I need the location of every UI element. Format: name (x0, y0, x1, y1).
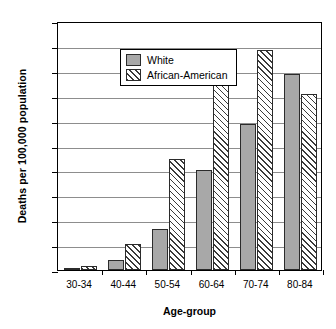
bar-white (152, 229, 168, 270)
legend-label-african-american: African-American (147, 69, 228, 81)
y-axis-tick (52, 247, 58, 248)
y-axis-tick (52, 172, 58, 173)
bar-group (102, 244, 146, 270)
bar-group (146, 159, 190, 270)
y-axis-tick (52, 148, 58, 149)
bar-group (235, 50, 279, 270)
y-axis-tick (52, 48, 58, 49)
bar-african-american (125, 244, 141, 270)
bar-african-american (301, 94, 317, 270)
bar-chart: Deaths per 100,000 population 0246810121… (0, 0, 336, 329)
legend-label-white: White (147, 54, 174, 66)
legend: White African-American (120, 49, 237, 86)
bar-group (279, 74, 323, 270)
y-axis-tick (52, 23, 58, 24)
bar-white (284, 74, 300, 270)
bar-white (108, 260, 124, 270)
x-axis-tick-label: 40-44 (101, 279, 145, 290)
bar-white (240, 124, 256, 270)
legend-swatch-african-american (126, 69, 141, 81)
x-axis-tick (191, 270, 192, 275)
x-axis-title: Age-group (57, 305, 322, 317)
x-axis-tick (146, 270, 147, 275)
y-axis-tick (52, 123, 58, 124)
bar-african-american (169, 159, 185, 270)
bar-group (58, 266, 102, 270)
x-axis-tick (279, 270, 280, 275)
bar-white (64, 268, 80, 270)
legend-swatch-white (126, 54, 141, 66)
bar-white (196, 170, 212, 270)
x-axis-tick-label: 30-34 (57, 279, 101, 290)
y-axis-tick (52, 222, 58, 223)
x-axis-tick (235, 270, 236, 275)
y-axis-title: Deaths per 100,000 population (16, 31, 28, 261)
y-axis-tick (52, 197, 58, 198)
x-axis-tick (323, 270, 324, 275)
bar-group (191, 81, 235, 270)
x-axis-tick (102, 270, 103, 275)
bar-african-american (81, 266, 97, 270)
x-axis-tick-label: 80-84 (278, 279, 322, 290)
bar-african-american (213, 81, 229, 270)
legend-item-white: White (126, 54, 228, 66)
x-axis-tick-label: 70-74 (234, 279, 278, 290)
y-axis-tick (52, 73, 58, 74)
legend-item-african-american: African-American (126, 69, 228, 81)
plot-area: 02468101214161820 White African-American (57, 22, 322, 271)
y-axis-tick (52, 272, 58, 273)
bar-african-american (257, 50, 273, 270)
x-axis-tick-label: 50-54 (145, 279, 189, 290)
y-axis-tick (52, 98, 58, 99)
x-axis-tick-label: 60-64 (190, 279, 234, 290)
